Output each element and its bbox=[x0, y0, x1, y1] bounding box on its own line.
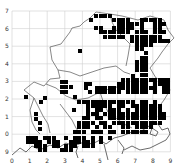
record-square bbox=[112, 26, 116, 30]
record-square bbox=[82, 100, 86, 104]
record-square bbox=[34, 117, 38, 121]
record-square bbox=[126, 22, 130, 26]
record-square bbox=[144, 51, 148, 55]
record-square bbox=[121, 26, 125, 30]
record-square bbox=[144, 78, 148, 82]
record-square bbox=[99, 30, 103, 34]
record-square bbox=[82, 144, 86, 148]
record-square bbox=[117, 86, 121, 90]
record-square bbox=[95, 130, 99, 134]
record-square bbox=[103, 112, 107, 116]
record-square bbox=[149, 125, 153, 129]
record-square bbox=[82, 116, 86, 120]
record-square bbox=[140, 60, 144, 64]
record-square bbox=[112, 86, 116, 90]
record-square bbox=[153, 35, 157, 39]
record-square bbox=[99, 121, 103, 125]
record-square bbox=[140, 104, 144, 108]
record-square bbox=[95, 116, 99, 120]
record-square bbox=[95, 108, 99, 112]
record-squares bbox=[24, 14, 170, 152]
record-square bbox=[144, 90, 148, 94]
record-square bbox=[64, 144, 68, 148]
record-square bbox=[88, 90, 92, 94]
record-square bbox=[91, 130, 95, 134]
record-square bbox=[126, 26, 130, 30]
record-square bbox=[95, 104, 99, 108]
record-square bbox=[60, 85, 64, 89]
record-square bbox=[126, 82, 130, 86]
record-square bbox=[158, 104, 162, 108]
record-square bbox=[117, 121, 121, 125]
record-square bbox=[43, 144, 47, 148]
record-square bbox=[135, 78, 139, 82]
record-square bbox=[158, 30, 162, 34]
record-square bbox=[103, 90, 107, 94]
record-square bbox=[144, 104, 148, 108]
record-square bbox=[121, 30, 125, 34]
record-square bbox=[140, 68, 144, 72]
x-axis-label: 8 bbox=[151, 157, 155, 164]
record-square bbox=[144, 64, 148, 68]
record-square bbox=[162, 78, 166, 82]
record-square bbox=[103, 86, 107, 90]
record-square bbox=[131, 121, 135, 125]
record-square bbox=[166, 82, 170, 86]
record-square bbox=[144, 43, 148, 47]
record-square bbox=[117, 90, 121, 94]
record-square bbox=[99, 26, 103, 30]
record-square bbox=[158, 35, 162, 39]
record-square bbox=[91, 100, 95, 104]
record-square bbox=[73, 140, 77, 144]
record-square bbox=[103, 35, 107, 39]
record-square bbox=[121, 125, 125, 129]
record-square bbox=[108, 125, 112, 129]
x-axis-labels: 0123456789 bbox=[10, 157, 172, 164]
record-square bbox=[140, 86, 144, 90]
record-square bbox=[158, 22, 162, 26]
record-square bbox=[60, 148, 64, 152]
record-square bbox=[112, 121, 116, 125]
record-square bbox=[121, 22, 125, 26]
record-square bbox=[144, 39, 148, 43]
record-square bbox=[131, 82, 135, 86]
record-square bbox=[135, 64, 139, 68]
record-square bbox=[99, 140, 103, 144]
record-square bbox=[84, 82, 88, 86]
record-square bbox=[117, 112, 121, 116]
record-square bbox=[77, 136, 81, 140]
record-square bbox=[108, 90, 112, 94]
record-square bbox=[135, 35, 139, 39]
record-square bbox=[153, 86, 157, 90]
record-square bbox=[103, 104, 107, 108]
record-square bbox=[56, 144, 60, 148]
record-square bbox=[135, 39, 139, 43]
record-square bbox=[144, 108, 148, 112]
record-square bbox=[91, 121, 95, 125]
record-square bbox=[140, 39, 144, 43]
record-square bbox=[144, 30, 148, 34]
record-square bbox=[144, 73, 148, 77]
island-outline bbox=[150, 128, 158, 136]
record-square bbox=[158, 26, 162, 30]
record-square bbox=[26, 140, 30, 144]
record-square bbox=[166, 39, 170, 43]
record-square bbox=[121, 86, 125, 90]
record-square bbox=[112, 30, 116, 34]
record-square bbox=[149, 86, 153, 90]
record-square bbox=[77, 100, 81, 104]
record-square bbox=[153, 100, 157, 104]
record-square bbox=[117, 30, 121, 34]
record-square bbox=[38, 121, 42, 125]
record-square bbox=[121, 18, 125, 22]
record-square bbox=[64, 90, 68, 94]
record-square bbox=[99, 86, 103, 90]
record-square bbox=[52, 140, 56, 144]
record-square bbox=[108, 86, 112, 90]
y-axis-label: 2 bbox=[5, 95, 9, 102]
record-square bbox=[144, 112, 148, 116]
record-square bbox=[166, 90, 170, 94]
record-square bbox=[153, 39, 157, 43]
record-square bbox=[103, 125, 107, 129]
record-square bbox=[121, 100, 125, 104]
